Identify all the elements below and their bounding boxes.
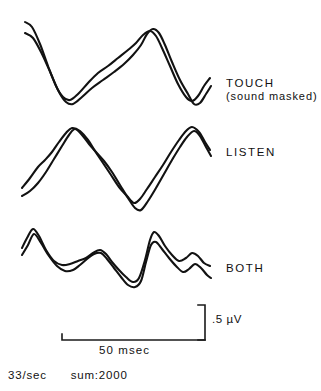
amplitude-scale-label: .5 µV [212, 313, 242, 325]
condition-label-touch: TOUCH (sound masked) [226, 76, 317, 104]
waveform-trace [22, 129, 211, 210]
condition-label-listen: LISTEN [226, 145, 276, 159]
waveform-plot [0, 0, 321, 391]
condition-label-listen-text: LISTEN [226, 146, 276, 158]
time-scale-label: 50 msec [99, 344, 150, 356]
time-scale-bar [62, 334, 205, 340]
condition-label-both: BOTH [226, 261, 264, 275]
trace-group [22, 22, 211, 287]
condition-label-touch-text: TOUCH [226, 77, 275, 89]
scale-bars [62, 305, 205, 340]
stimulus-rate-label: 33/sec [8, 369, 47, 381]
amplitude-scale-bar [198, 305, 205, 340]
waveform-trace [22, 229, 210, 282]
condition-label-both-text: BOTH [226, 262, 264, 274]
sum-count-label: sum:2000 [71, 369, 128, 381]
waveform-trace [25, 22, 210, 101]
evoked-potential-figure: TOUCH (sound masked) LISTEN BOTH .5 µV 5… [0, 0, 321, 391]
condition-sublabel-touch: (sound masked) [226, 90, 317, 104]
figure-footer: 33/sec sum:2000 [8, 369, 128, 381]
